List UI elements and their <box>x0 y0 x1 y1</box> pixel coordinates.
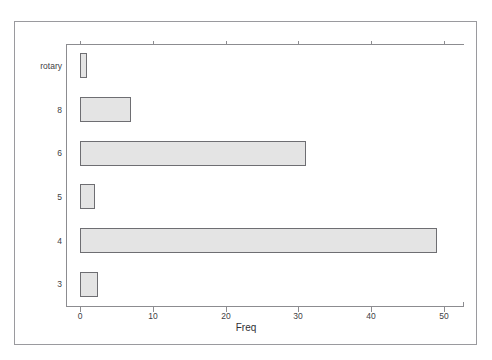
x-tick-label-40: 40 <box>351 311 391 321</box>
x-tick-label-0: 0 <box>60 311 100 321</box>
y-tick-label-4: 4 <box>18 236 62 246</box>
y-tick-label-5: 5 <box>18 192 62 202</box>
x-tick-label-50: 50 <box>424 311 464 321</box>
x-axis-label: Freq <box>0 322 492 333</box>
x-tick-label-30: 30 <box>278 311 318 321</box>
y-tick-label-rotary: rotary <box>18 61 62 71</box>
bar-4 <box>80 228 437 253</box>
bar-3 <box>80 272 98 297</box>
y-tick-label-6: 6 <box>18 148 62 158</box>
x-tick-label-10: 10 <box>133 311 173 321</box>
bar-8 <box>80 97 131 122</box>
x-tick-top-30 <box>298 41 299 45</box>
bar-6 <box>80 141 306 166</box>
bars-layer: rotary8654301020304050 <box>0 0 492 360</box>
x-tick-top-0 <box>80 41 81 45</box>
x-tick-label-20: 20 <box>206 311 246 321</box>
y-tick-label-8: 8 <box>18 105 62 115</box>
x-tick-top-10 <box>153 41 154 45</box>
x-tick-top-20 <box>226 41 227 45</box>
bar-rotary <box>80 53 87 78</box>
y-tick-label-3: 3 <box>18 279 62 289</box>
x-tick-top-50 <box>444 41 445 45</box>
x-tick-top-40 <box>371 41 372 45</box>
bar-5 <box>80 184 95 209</box>
